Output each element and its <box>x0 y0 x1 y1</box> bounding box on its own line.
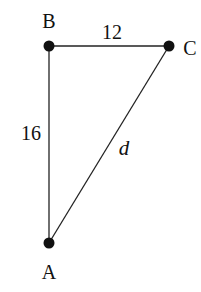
point-b <box>44 41 55 52</box>
label-a: A <box>42 261 57 283</box>
label-bc-length: 12 <box>102 21 122 43</box>
triangle-diagram: B C A 12 16 d <box>0 0 201 292</box>
label-c: C <box>183 37 196 59</box>
point-c <box>164 41 175 52</box>
label-b: B <box>42 10 55 32</box>
edge-a-c <box>49 46 169 243</box>
label-ba-length: 16 <box>21 122 41 144</box>
label-ac-length: d <box>119 136 130 160</box>
point-a <box>44 238 55 249</box>
